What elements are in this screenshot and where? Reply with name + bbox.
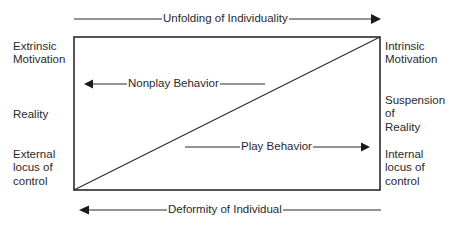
right-label-internal-locus: Internal locus of control — [385, 148, 425, 188]
arrowhead-left-icon — [84, 80, 93, 89]
arrowhead-right-icon — [361, 143, 370, 152]
right-label-suspension-of-reality: Suspension of Reality — [385, 94, 445, 134]
label-line: locus of — [385, 161, 425, 174]
arrowhead-right-icon — [371, 14, 381, 24]
label-line: locus of — [13, 161, 55, 174]
label-line: Motivation — [13, 53, 65, 66]
arrowhead-left-icon — [79, 206, 89, 215]
nonplay-arrow-label: Nonplay Behavior — [127, 77, 220, 90]
left-label-reality: Reality — [13, 108, 48, 121]
top-arrow-label: Unfolding of Individuality — [162, 12, 289, 25]
left-label-external-locus: External locus of control — [13, 148, 55, 188]
label-line: control — [385, 175, 425, 188]
left-label-extrinsic-motivation: Extrinsic Motivation — [13, 40, 65, 67]
label-line: Reality — [13, 108, 48, 121]
label-line: of — [385, 107, 445, 120]
label-line: control — [13, 175, 55, 188]
label-line: Extrinsic — [13, 40, 65, 53]
right-label-intrinsic-motivation: Intrinsic Motivation — [385, 40, 437, 67]
label-line: Suspension — [385, 94, 445, 107]
label-line: External — [13, 148, 55, 161]
bottom-arrow-label: Deformity of Individual — [167, 203, 283, 216]
play-arrow-label: Play Behavior — [240, 140, 313, 153]
label-line: Internal — [385, 148, 425, 161]
label-line: Reality — [385, 121, 445, 134]
diagonal-line — [74, 37, 380, 190]
label-line: Intrinsic — [385, 40, 437, 53]
label-line: Motivation — [385, 53, 437, 66]
